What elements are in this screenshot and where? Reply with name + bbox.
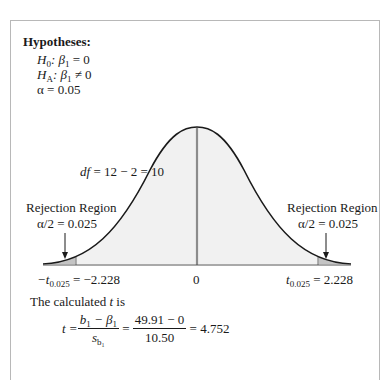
t-statistic-formula: t = b1 − β1 sb₁ = 49.91 − 0 10.50 = 4.75… — [62, 311, 229, 347]
df-label: df = 12 − 2 = 10 — [80, 165, 164, 179]
value-fraction: 49.91 − 0 10.50 — [133, 313, 187, 345]
calculated-t-intro: The calculated t is — [30, 295, 125, 309]
left-critical-label: −t0.025 = −2.228 — [37, 273, 120, 287]
left-rejection-alpha: α/2 = 0.025 — [37, 217, 97, 231]
right-rejection-title: Rejection Region — [287, 201, 378, 215]
right-critical-label: t0.025 = 2.228 — [286, 273, 353, 287]
center-label: 0 — [193, 273, 200, 287]
left-rejection-title: Rejection Region — [26, 201, 117, 215]
formula-fraction: b1 − β1 sb₁ — [78, 313, 119, 345]
right-rejection-alpha: α/2 = 0.025 — [298, 217, 358, 231]
